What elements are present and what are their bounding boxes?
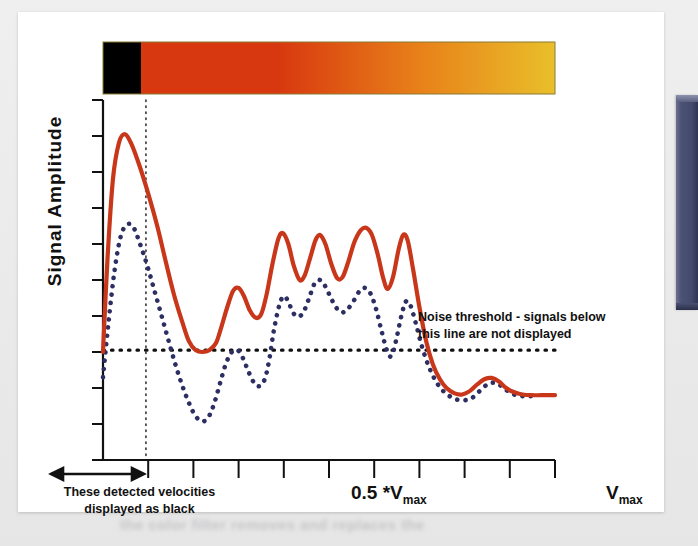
velocity-signal-chart: Signal Amplitude Noise threshold - signa… [18, 12, 664, 512]
x-tick-label-vmax: Vmax [606, 482, 643, 507]
colorbar-black-segment [103, 42, 141, 94]
x-tick-label-vmax-text: V [606, 482, 619, 503]
chart-svg [18, 12, 664, 512]
y-axis-ticks [92, 100, 103, 460]
x-axis-ticks [148, 460, 555, 478]
x-tick-label-half-vmax-sub: max [403, 493, 427, 507]
velocity-colorbar [103, 42, 555, 94]
black-velocity-annotation-line1: These detected velocities [32, 484, 247, 501]
black-range-arrow [51, 468, 144, 480]
adjacent-slide-edge-bottom-bevel [676, 303, 698, 310]
adjacent-slide-edge-top-bevel [676, 95, 698, 102]
page-caption-strip: the color filter removes and replaces th… [0, 512, 698, 546]
y-axis-title: Signal Amplitude [44, 106, 66, 296]
colorbar-color-ramp [141, 42, 555, 94]
x-tick-label-vmax-sub: max [619, 493, 643, 507]
noise-threshold-annotation-line2: this line are not displayed [418, 326, 648, 343]
page-background: Signal Amplitude Noise threshold - signa… [0, 0, 698, 546]
x-tick-label-half-vmax-text: 0.5 *V [351, 482, 403, 503]
noise-threshold-annotation: Noise threshold - signals below this lin… [418, 309, 648, 343]
x-tick-label-half-vmax: 0.5 *Vmax [351, 482, 427, 507]
adjacent-slide-edge [676, 95, 698, 310]
chart-axes [92, 100, 555, 478]
page-caption-text: the color filter removes and replaces th… [120, 516, 425, 533]
noise-threshold-annotation-line1: Noise threshold - signals below [418, 309, 648, 326]
figure-panel: Signal Amplitude Noise threshold - signa… [18, 12, 664, 512]
